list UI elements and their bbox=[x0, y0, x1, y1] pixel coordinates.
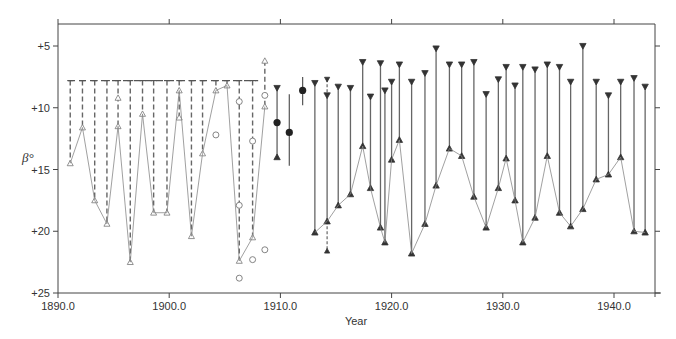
filled-triangle-down-marker bbox=[367, 94, 373, 100]
plot-area bbox=[67, 43, 648, 281]
filled-triangle-down-marker bbox=[325, 77, 330, 82]
open-circle-marker bbox=[236, 99, 242, 105]
y-tick-label: +5 bbox=[37, 40, 50, 52]
filled-triangle-down-marker bbox=[388, 79, 394, 85]
open-circle-marker bbox=[250, 257, 256, 263]
x-tick-label: 1920.0 bbox=[375, 300, 409, 312]
filled-triangle-down-marker bbox=[631, 76, 637, 82]
filled-circle-marker bbox=[286, 129, 293, 136]
filled-triangle-up-marker bbox=[325, 248, 330, 253]
filled-triangle-down-marker bbox=[408, 79, 414, 85]
filled-triangle-down-marker bbox=[495, 77, 501, 83]
x-tick-label: 1890.0 bbox=[41, 300, 75, 312]
filled-triangle-down-marker bbox=[422, 71, 428, 77]
filled-triangle-down-marker bbox=[312, 80, 318, 86]
filled-triangle-down-marker bbox=[335, 84, 341, 90]
filled-triangle-down-marker bbox=[532, 67, 538, 73]
y-tick-label: +15 bbox=[31, 164, 50, 176]
open-circle-marker bbox=[262, 247, 268, 253]
filled-triangle-down-marker bbox=[382, 88, 388, 94]
open-circle-marker bbox=[236, 202, 242, 208]
open-circle-marker bbox=[250, 138, 256, 144]
filled-triangle-down-marker bbox=[642, 84, 648, 90]
filled-triangle-up-marker bbox=[274, 154, 280, 160]
filled-circle-marker bbox=[299, 87, 306, 94]
filled-triangle-down-marker bbox=[503, 64, 509, 70]
filled-triangle-down-marker bbox=[446, 62, 452, 68]
filled-triangle-down-marker bbox=[605, 93, 611, 99]
open-triangle-marker bbox=[115, 95, 121, 100]
open-series-connector bbox=[70, 86, 265, 263]
open-circle-marker bbox=[213, 132, 219, 138]
filled-triangle-down-marker bbox=[359, 59, 365, 65]
filled-triangle-down-marker bbox=[483, 92, 489, 98]
filled-triangle-down-marker bbox=[617, 79, 623, 85]
x-tick-label: 1940.0 bbox=[597, 300, 631, 312]
open-circle-marker bbox=[262, 92, 268, 98]
filled-triangle-down-marker bbox=[593, 79, 599, 85]
filled-triangle-down-marker bbox=[520, 64, 526, 70]
filled-triangle-down-marker bbox=[471, 59, 477, 65]
filled-triangle-down-marker bbox=[458, 62, 464, 68]
chart: +5+10+15+20+25 1890.01900.01910.01920.01… bbox=[0, 0, 676, 339]
filled-triangle-down-marker bbox=[567, 79, 573, 85]
y-tick-label: +25 bbox=[31, 287, 50, 299]
filled-triangle-down-marker bbox=[377, 61, 383, 67]
filled-triangle-down-marker bbox=[324, 93, 330, 99]
filled-triangle-down-marker bbox=[274, 85, 280, 91]
x-axis-title: Year bbox=[345, 315, 368, 327]
x-tick-label: 1900.0 bbox=[152, 300, 186, 312]
filled-triangle-down-marker bbox=[580, 43, 586, 49]
filled-circle-marker bbox=[273, 119, 280, 126]
y-tick-label: +10 bbox=[31, 102, 50, 114]
x-tick-label: 1910.0 bbox=[264, 300, 298, 312]
open-triangle-marker bbox=[262, 58, 268, 63]
filled-triangle-down-marker bbox=[512, 83, 518, 89]
filled-triangle-down-marker bbox=[433, 46, 439, 52]
filled-triangle-down-marker bbox=[544, 62, 550, 68]
open-circle-marker bbox=[236, 275, 242, 281]
filled-triangle-down-marker bbox=[556, 64, 562, 70]
filled-triangle-down-marker bbox=[347, 85, 353, 91]
y-axis-title: β° bbox=[21, 150, 34, 165]
filled-triangle-down-marker bbox=[396, 62, 402, 68]
y-axis: +5+10+15+20+25 bbox=[31, 40, 660, 299]
x-tick-label: 1930.0 bbox=[486, 300, 520, 312]
y-tick-label: +20 bbox=[31, 225, 50, 237]
